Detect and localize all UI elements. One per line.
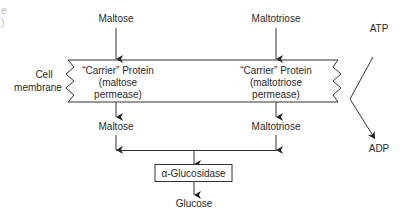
transport-diagram: e ) Maltose Maltotriose Cell membrane “C… — [0, 0, 404, 216]
inside-maltose-label: Maltose — [98, 121, 133, 132]
product-glucose-label: Glucose — [176, 198, 213, 209]
cropped-text-fragment: e — [1, 5, 7, 16]
input-maltotriose-label: Maltotriose — [252, 13, 301, 24]
input-maltose-label: Maltose — [98, 13, 133, 24]
carrier-maltose-line3: permease) — [94, 89, 142, 100]
carrier-maltose-line1: “Carrier” Protein — [82, 65, 154, 76]
energy-arrow — [350, 57, 375, 139]
inside-maltotriose-label: Maltotriose — [252, 121, 301, 132]
atp-label: ATP — [370, 23, 389, 34]
carrier-maltose-line2: (maltose — [99, 77, 138, 88]
carrier-maltotriose-line3: permease) — [252, 89, 300, 100]
enzyme-label: α-Glucosidase — [161, 168, 226, 179]
cropped-text-fragment: ) — [1, 17, 4, 28]
carrier-maltotriose-line2: (maltotriose — [250, 77, 303, 88]
adp-label: ADP — [369, 143, 390, 154]
carrier-maltotriose-line1: “Carrier” Protein — [240, 65, 312, 76]
cell-membrane-label-line1: Cell — [35, 69, 52, 80]
cell-membrane-label-line2: membrane — [14, 82, 62, 93]
